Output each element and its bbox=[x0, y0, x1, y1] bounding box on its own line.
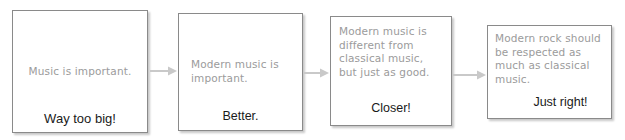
step-body-text-4: Modern rock should be respected as much … bbox=[488, 32, 611, 86]
step-box-1: Music is important. Way too big! bbox=[12, 10, 148, 133]
thesis-refinement-diagram: Music is important. Way too big! Modern … bbox=[0, 0, 625, 140]
arrow-right-icon-2 bbox=[304, 66, 330, 80]
step-box-3: Modern music is different from classical… bbox=[330, 16, 452, 126]
step-box-2: Modern music is important. Better. bbox=[178, 13, 303, 131]
step-caption-2: Better. bbox=[179, 109, 302, 124]
step-box-4: Modern rock should be respected as much … bbox=[487, 25, 612, 119]
step-caption-1: Way too big! bbox=[13, 111, 147, 126]
step-body-text-1: Music is important. bbox=[13, 65, 147, 79]
step-body-text-3: Modern music is different from classical… bbox=[331, 25, 451, 79]
arrow-right-icon-1 bbox=[150, 64, 178, 78]
step-caption-4: Just right! bbox=[488, 95, 611, 110]
arrow-right-icon-3 bbox=[453, 68, 487, 82]
step-body-text-2: Modern music is important. bbox=[179, 58, 302, 85]
step-caption-3: Closer! bbox=[331, 101, 451, 116]
